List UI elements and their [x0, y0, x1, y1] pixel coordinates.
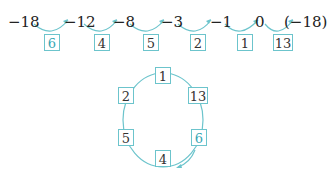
sequence-value: −1: [210, 14, 232, 30]
cycle-box-upper-right: 13: [188, 87, 208, 104]
sequence-value: −18: [8, 14, 40, 30]
step-box: 4: [94, 34, 110, 51]
cycle-box-bottom: 4: [155, 150, 171, 167]
step-box: 5: [143, 34, 159, 51]
cycle-box-top: 1: [155, 67, 171, 84]
sequence-value: −3: [161, 14, 183, 30]
sequence-value: 0: [255, 14, 265, 30]
step-box: 6: [44, 34, 60, 51]
sequence-value: −8: [113, 14, 135, 30]
step-box: 1: [237, 34, 253, 51]
cycle-box-lower-left: 5: [118, 129, 134, 146]
sequence-value: −12: [64, 14, 96, 30]
step-box: 13: [273, 34, 293, 51]
cycle-box-lower-right: 6: [191, 129, 207, 146]
step-box: 2: [190, 34, 206, 51]
sequence-value: (−18): [284, 14, 327, 30]
cycle-box-upper-left: 2: [118, 87, 134, 104]
